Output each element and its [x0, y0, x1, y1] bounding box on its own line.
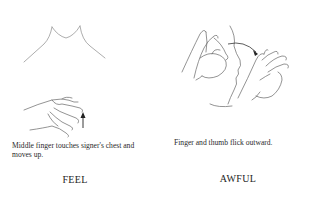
awful-caption: Finger and thumb flick outward. [174, 138, 273, 147]
left-hand-icon [182, 30, 228, 80]
hand-icon [24, 97, 83, 137]
feel-word: FEEL [58, 174, 92, 185]
chest-outline-icon [24, 26, 105, 62]
sign-panel-feel: Middle finger touches signer's chest and… [0, 0, 156, 197]
right-hand-icon [238, 50, 289, 101]
feel-illustration [0, 0, 156, 140]
curved-arrow-icon [228, 43, 258, 56]
arrow-up-icon [81, 112, 86, 128]
sign-panel-awful: Finger and thumb flick outward. AWFUL [156, 0, 313, 197]
awful-illustration [156, 0, 313, 140]
awful-word: AWFUL [216, 173, 260, 184]
feel-caption: Middle finger touches signer's chest and… [12, 141, 152, 159]
